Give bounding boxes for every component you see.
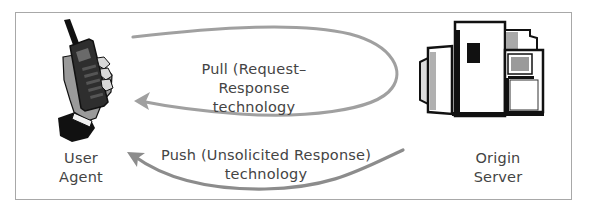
user-agent-label-line1: User bbox=[41, 149, 121, 168]
push-technology-label: Push (Unsolicited Response) technology bbox=[160, 146, 372, 184]
mobile-phone-in-hand-icon bbox=[58, 19, 113, 142]
push-arrowhead-icon bbox=[127, 152, 145, 167]
user-agent-label-line2: Agent bbox=[41, 168, 121, 187]
origin-server-label: Origin Server bbox=[458, 149, 538, 187]
push-label-line2: technology bbox=[160, 165, 372, 184]
push-label-line1: Push (Unsolicited Response) bbox=[160, 146, 372, 165]
origin-server-label-line1: Origin bbox=[458, 149, 538, 168]
pull-label-line1: Pull (Request–Response bbox=[168, 60, 340, 98]
user-agent-label: User Agent bbox=[41, 149, 121, 187]
origin-server-label-line2: Server bbox=[458, 168, 538, 187]
pull-technology-label: Pull (Request–Response technology bbox=[168, 60, 340, 117]
pull-label-line2: technology bbox=[168, 98, 340, 117]
server-mainframe-icon bbox=[420, 22, 544, 116]
